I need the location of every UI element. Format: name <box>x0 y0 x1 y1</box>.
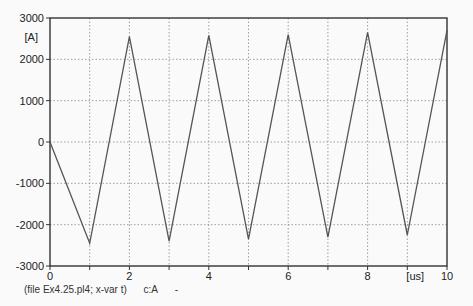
chart: 3000200010000-1000-2000-30000246810[A][u… <box>0 0 473 306</box>
x-tick-label: 2 <box>126 270 132 282</box>
y-tick-label: -2000 <box>16 219 44 231</box>
y-tick-label: 0 <box>38 136 44 148</box>
y-tick-label: -3000 <box>16 260 44 272</box>
series-marker: - <box>175 284 178 295</box>
y-tick-label: 3000 <box>20 12 44 24</box>
series-label: c:A <box>144 284 158 295</box>
footer: (file Ex4.25.pl4; x-var t) c:A - <box>24 284 192 295</box>
x-tick-label: 4 <box>206 270 212 282</box>
x-tick-label: 8 <box>365 270 371 282</box>
y-axis-label: [A] <box>25 31 38 43</box>
x-tick-label: 10 <box>441 270 453 282</box>
x-axis-label: [us] <box>406 270 424 282</box>
x-tick-label: 6 <box>285 270 291 282</box>
file-label: (file Ex4.25.pl4; x-var t) <box>24 284 127 295</box>
y-tick-label: 2000 <box>20 53 44 65</box>
y-tick-label: -1000 <box>16 177 44 189</box>
y-tick-label: 1000 <box>20 95 44 107</box>
x-tick-label: 0 <box>47 270 53 282</box>
